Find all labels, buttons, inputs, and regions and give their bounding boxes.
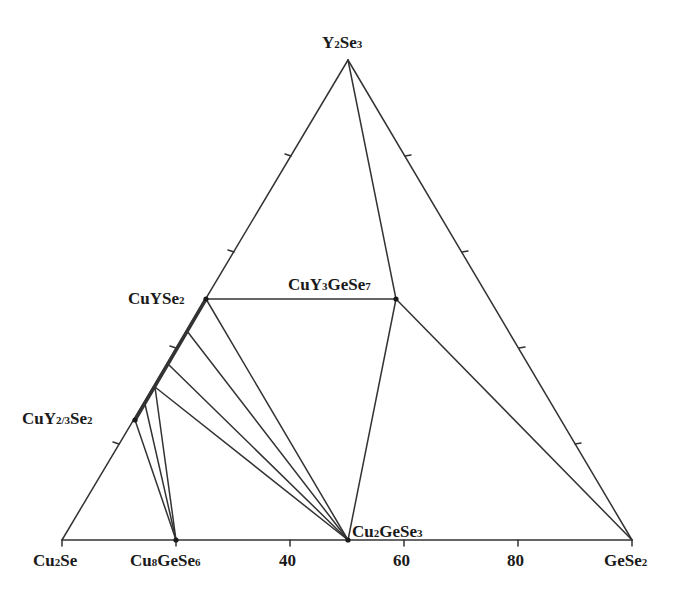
tie-cuy3gese7-gese2 (396, 299, 632, 540)
tick-left-80 (285, 154, 291, 156)
edge-right (348, 60, 632, 540)
tick-right-40 (462, 251, 468, 252)
point-cuy23se2 (132, 417, 137, 422)
tie-ss1-cu2gese3 (187, 331, 348, 540)
tick-left-40 (170, 346, 176, 348)
label-gese2: GeSe2 (604, 552, 647, 569)
tie-cuy23se2-cu8gese6 (135, 420, 176, 540)
label-cuy23se2: CuY2/3Se2 (22, 410, 93, 427)
label-cuy3gese7: CuY3GeSe7 (288, 276, 371, 293)
axis-tick-label-40: 40 (279, 552, 296, 569)
tick-right-80 (575, 443, 581, 444)
point-cu2gese3 (345, 537, 350, 542)
point-cuy3gese7 (393, 296, 398, 301)
label-cu2gese3: Cu2GeSe3 (352, 523, 423, 540)
tie-ss3-cu2gese3 (155, 387, 348, 540)
tie-y2se3-cuy3gese7 (348, 60, 396, 299)
point-cu8gese6 (173, 537, 178, 542)
tie-cuy3gese7-cu2gese3 (348, 299, 396, 540)
tick-right-60 (519, 347, 525, 348)
point-cuyse2 (203, 296, 208, 301)
label-y2se3: Y2Se3 (322, 34, 362, 51)
label-cu2se: Cu2Se (33, 552, 77, 569)
tie-ss2-cu2gese3 (168, 364, 348, 540)
tie-cuyse2-cu2gese3 (206, 299, 348, 540)
label-cu8gese6: Cu8GeSe6 (130, 552, 201, 569)
axis-tick-label-80: 80 (507, 552, 524, 569)
tick-left-60 (228, 250, 234, 252)
tick-right-20 (405, 155, 411, 156)
tick-left-20 (113, 442, 119, 444)
axis-tick-label-60: 60 (393, 552, 410, 569)
label-cuyse2: CuYSe2 (128, 290, 185, 307)
solid-solution-line (135, 299, 206, 420)
ternary-diagram (0, 0, 687, 593)
